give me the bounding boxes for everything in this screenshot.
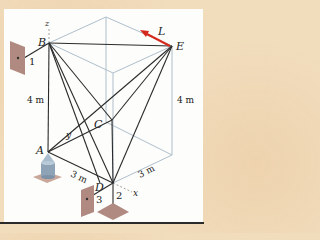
ground-support-2 <box>97 203 129 220</box>
label-point-E: E <box>175 40 184 53</box>
label-point-D: D <box>94 181 104 194</box>
wall-support-1 <box>10 41 25 75</box>
label-point-A: A <box>35 144 44 157</box>
label-point-C: C <box>94 118 103 131</box>
dimension-side-width: 3 m <box>136 163 156 180</box>
label-support-2: 2 <box>116 190 122 201</box>
label-force-L: L <box>157 25 165 38</box>
dimension-left-height: 4 m <box>27 95 45 105</box>
label-axis-z: z <box>44 19 50 28</box>
label-point-B: B <box>37 36 46 49</box>
label-support-3: 3 <box>96 194 102 205</box>
reference-box <box>49 17 172 183</box>
wall-support-3 <box>81 185 94 217</box>
label-support-1: 1 <box>29 56 35 67</box>
label-axis-y: y <box>65 130 72 140</box>
truss-diagram: B E A C D L z y x 4 m 4 m 3 m 3 m 1 2 3 <box>0 0 210 233</box>
dimension-right-height: 4 m <box>177 95 195 105</box>
ball-support-A <box>33 153 62 183</box>
label-axis-x: x <box>133 188 138 198</box>
force-arrow-L <box>140 30 170 46</box>
dimension-front-depth: 3 m <box>69 169 89 185</box>
